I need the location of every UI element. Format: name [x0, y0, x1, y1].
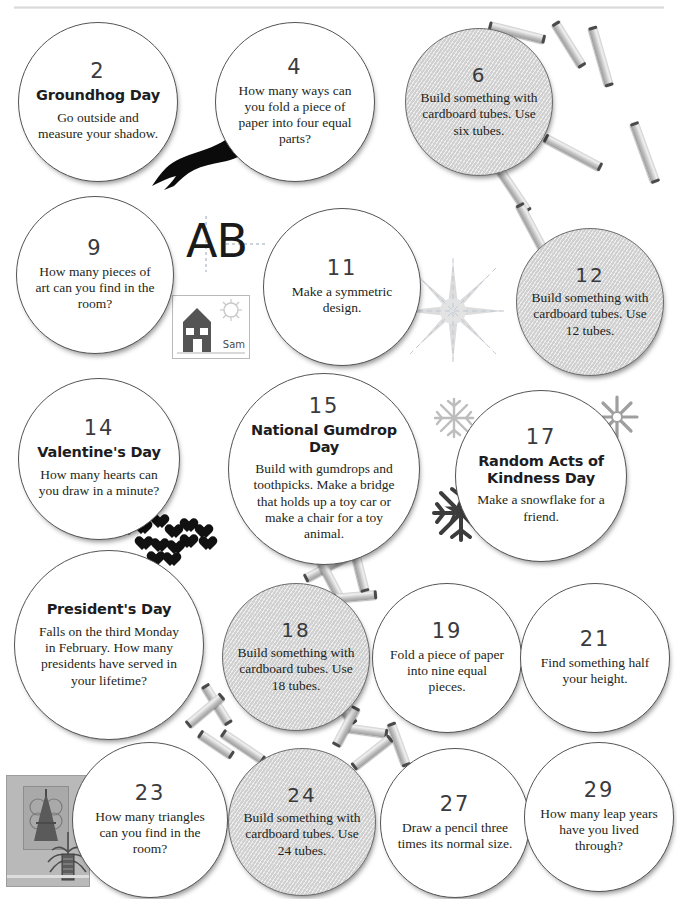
bubble-number: 14 — [84, 418, 115, 439]
bubble-number: 23 — [135, 783, 166, 804]
bubble-number: 15 — [309, 396, 340, 417]
bubble-body: Build something with cardboard tubes. Us… — [237, 645, 355, 694]
bubble-day-19[interactable]: 19 Fold a piece of paper into nine equal… — [372, 583, 522, 733]
bubble-day-24[interactable]: 24 Build something with cardboard tubes.… — [228, 748, 376, 896]
cardboard-tube-icon — [551, 20, 586, 69]
bubble-day-11[interactable]: 11 Make a symmetric design. — [263, 208, 421, 366]
bubble-number: 6 — [472, 65, 487, 85]
bubble-day-2[interactable]: 2 Groundhog Day Go outside and measure y… — [18, 22, 178, 182]
bubble-day-15[interactable]: 15 National Gumdrop Day Build with gumdr… — [228, 373, 420, 565]
bubble-heading: Groundhog Day — [36, 87, 160, 104]
heart-icon — [202, 537, 219, 553]
bubble-number: 4 — [287, 57, 302, 78]
bubble-number: 12 — [575, 265, 604, 285]
drawing-signature-label: Sam — [223, 339, 245, 350]
bubble-day-27[interactable]: 27 Draw a pencil three times its normal … — [380, 748, 530, 898]
bubble-day-29[interactable]: 29 How many leap years have you lived th… — [524, 742, 674, 892]
bubble-day-12[interactable]: 12 Build something with cardboard tubes.… — [516, 228, 664, 376]
bubble-heading: President's Day — [47, 601, 172, 618]
bubble-day-18[interactable]: 18 Build something with cardboard tubes.… — [222, 583, 370, 731]
bubble-body: Build something with cardboard tubes. Us… — [243, 810, 361, 859]
bubble-presidents-day[interactable]: President's Day Falls on the third Monda… — [14, 550, 204, 740]
bubble-day-4[interactable]: 4 How many ways can you fold a piece of … — [215, 22, 375, 182]
floor-line — [7, 875, 89, 878]
cardboard-tube-icon — [543, 134, 604, 172]
bubble-heading: Random Acts of Kindness Day — [470, 453, 612, 486]
childs-house-drawing-icon: Sam — [172, 295, 250, 359]
bubble-heading: National Gumdrop Day — [245, 422, 403, 455]
bubble-body: Go outside and measure your shadow. — [33, 110, 163, 142]
bubble-body: Find something half your height. — [535, 655, 655, 687]
bubble-number: 17 — [526, 427, 557, 448]
bubble-body: How many hearts can you draw in a minute… — [33, 467, 165, 499]
bubble-body: Build something with cardboard tubes. Us… — [420, 90, 538, 139]
bubble-body: How many triangles can you find in the r… — [87, 809, 213, 858]
top-rule-divider — [14, 6, 664, 9]
bubble-body: Falls on the third Monday in February. H… — [33, 624, 185, 689]
bubble-body: Fold a piece of paper into nine equal pi… — [387, 647, 507, 696]
bubble-number: 18 — [281, 620, 310, 640]
bubble-number: 2 — [90, 61, 105, 82]
bubble-day-21[interactable]: 21 Find something half your height. — [520, 583, 670, 733]
cardboard-tube-icon — [630, 121, 660, 184]
bubble-body: Make a snowflake for a friend. — [470, 492, 612, 524]
bubble-body: How many pieces of art can you find in t… — [31, 264, 159, 313]
bubble-body: Make a symmetric design. — [278, 284, 406, 316]
bubble-day-9[interactable]: 9 How many pieces of art can you find in… — [16, 196, 174, 354]
heart-icon — [166, 553, 183, 569]
bubble-number: 27 — [440, 794, 471, 815]
bubble-number: 29 — [584, 780, 615, 801]
bubble-day-14[interactable]: 14 Valentine's Day How many hearts can y… — [18, 378, 180, 540]
bubble-day-6[interactable]: 6 Build something with cardboard tubes. … — [405, 28, 553, 176]
bubble-number: 24 — [287, 785, 316, 805]
cardboard-tube-icon — [387, 721, 411, 767]
bubble-heading: Valentine's Day — [37, 444, 160, 461]
bubble-body: Build with gumdrops and toothpicks. Make… — [245, 461, 403, 542]
bubble-body: Draw a pencil three times its normal siz… — [395, 820, 515, 852]
cardboard-tube-icon — [350, 734, 393, 771]
ab-symmetry-letters-icon: AB — [186, 214, 270, 276]
bubble-body: How many ways can you fold a piece of pa… — [230, 83, 360, 148]
ab-letters-label: AB — [186, 218, 247, 264]
bubble-number: 19 — [432, 621, 463, 642]
bubble-number: 21 — [580, 629, 611, 650]
activity-calendar-page: AB Sam — [0, 0, 677, 899]
cardboard-tube-icon — [588, 25, 614, 87]
bubble-body: Build something with cardboard tubes. Us… — [531, 290, 649, 339]
bubble-day-23[interactable]: 23 How many triangles can you find in th… — [72, 742, 228, 898]
bubble-body: How many leap years have you lived throu… — [539, 806, 659, 855]
bubble-day-17[interactable]: 17 Random Acts of Kindness Day Make a sn… — [455, 390, 627, 562]
bubble-number: 11 — [327, 258, 358, 279]
bubble-number: 9 — [87, 238, 102, 259]
